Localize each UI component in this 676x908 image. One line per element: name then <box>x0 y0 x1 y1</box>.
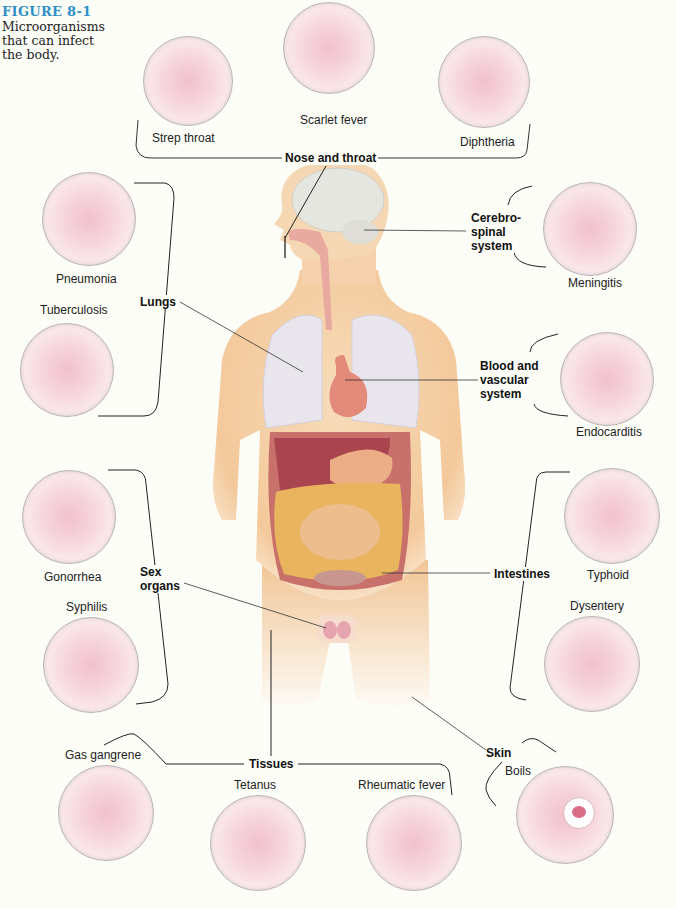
disease-label-boils: Boils <box>505 764 531 778</box>
disease-label-endocarditis: Endocarditis <box>576 425 642 439</box>
system-label-intestines: Intestines <box>494 567 550 581</box>
disease-label-strep-throat: Strep throat <box>152 131 215 145</box>
disease-label-syphilis: Syphilis <box>66 600 107 614</box>
disease-label-scarlet-fever: Scarlet fever <box>300 113 367 127</box>
slide-tuberculosis <box>20 323 114 417</box>
disease-label-pneumonia: Pneumonia <box>56 272 117 286</box>
system-label-skin: Skin <box>486 746 511 760</box>
slide-boils <box>516 766 614 864</box>
slide-syphilis <box>43 617 139 713</box>
slide-endocarditis <box>560 332 654 426</box>
system-label-blood-vascular: Blood and vascular system <box>480 359 539 401</box>
system-label-lungs: Lungs <box>140 295 176 309</box>
disease-label-gonorrhea: Gonorrhea <box>44 570 101 584</box>
slide-scarlet-fever <box>283 2 375 94</box>
system-label-sex-organs: Sex organs <box>140 565 180 593</box>
slide-diphtheria <box>438 36 530 128</box>
slide-rheumatic-fever <box>366 795 462 891</box>
disease-label-tetanus: Tetanus <box>234 778 276 792</box>
system-label-cerebrospinal: Cerebro- spinal system <box>471 211 521 253</box>
disease-label-meningitis: Meningitis <box>568 276 622 290</box>
slide-dysentery <box>544 616 640 712</box>
white-blood-cell <box>563 797 595 829</box>
slide-pneumonia <box>42 172 136 266</box>
slide-strep-throat <box>143 36 233 126</box>
disease-label-dysentery: Dysentery <box>570 599 624 613</box>
disease-label-diphtheria: Diphtheria <box>460 135 515 149</box>
slide-typhoid <box>564 468 660 564</box>
slide-meningitis <box>543 182 637 276</box>
disease-label-typhoid: Typhoid <box>587 568 629 582</box>
slide-tetanus <box>210 795 306 891</box>
disease-label-rheumatic-fever: Rheumatic fever <box>358 778 445 792</box>
system-label-tissues: Tissues <box>247 757 295 771</box>
slide-gas-gangrene <box>58 765 154 861</box>
human-body-illustration <box>213 159 465 706</box>
disease-label-tuberculosis: Tuberculosis <box>40 303 108 317</box>
system-label-nose-throat: Nose and throat <box>283 151 378 165</box>
disease-label-gas-gangrene: Gas gangrene <box>65 748 141 762</box>
slide-gonorrhea <box>22 470 116 564</box>
